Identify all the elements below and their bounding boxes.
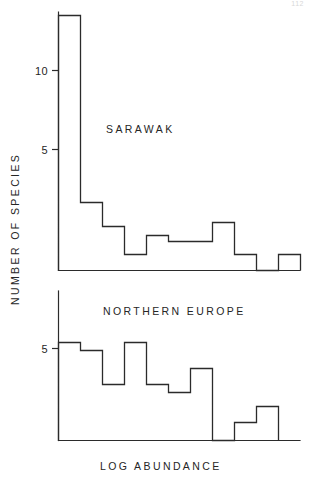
northern-europe-histogram-outline: [59, 343, 279, 441]
figure-container: 112 NUMBER OF SPECIES 10 5 SARAWAK: [0, 0, 310, 485]
page-number: 112: [291, 0, 304, 7]
sarawak-ytick-label-10: 10: [35, 65, 48, 77]
sarawak-ytick-label-5: 5: [41, 144, 48, 156]
northern-europe-ytick-label-5: 5: [41, 343, 48, 355]
northern-europe-panel-title: NORTHERN EUROPE: [103, 305, 246, 317]
sarawak-histogram-outline: [59, 16, 301, 271]
panel-sarawak: 10 5 SARAWAK: [35, 12, 301, 271]
x-axis-title: LOG ABUNDANCE: [100, 460, 222, 472]
sarawak-panel-title: SARAWAK: [106, 123, 175, 135]
panel-northern-europe: 5 NORTHERN EUROPE: [41, 291, 300, 441]
y-axis-title: NUMBER OF SPECIES: [9, 153, 21, 305]
two-panel-histogram-figure: NUMBER OF SPECIES 10 5 SARAWAK: [0, 0, 310, 485]
